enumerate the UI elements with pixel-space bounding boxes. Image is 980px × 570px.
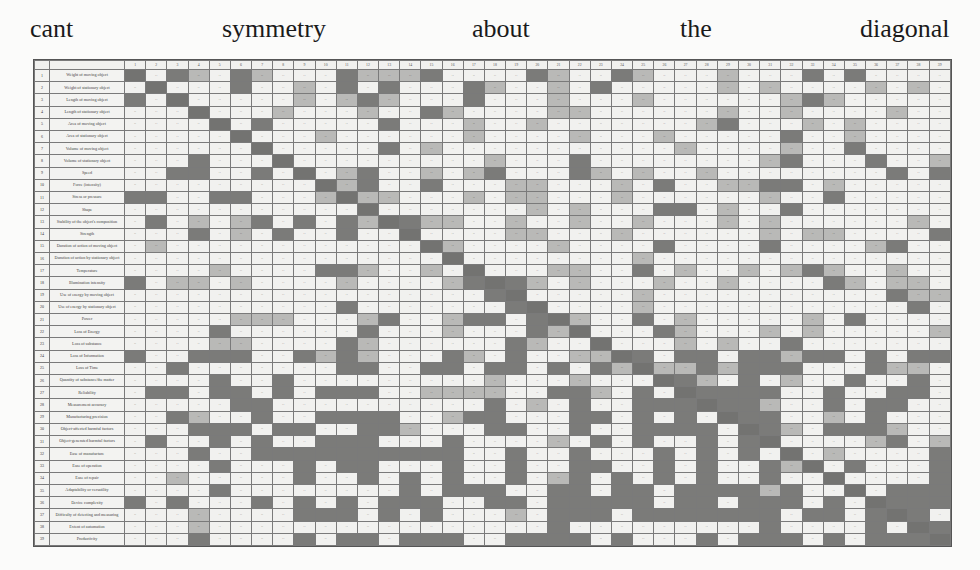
matrix-cell: ·· <box>463 472 484 484</box>
matrix-cell: ·· <box>717 460 738 472</box>
matrix-cell: ·· <box>633 216 654 228</box>
matrix-cell: ·· <box>527 472 548 484</box>
matrix-cell: ·· <box>357 216 378 228</box>
matrix-cell: ·· <box>146 484 167 496</box>
matrix-cell: ·· <box>506 484 527 496</box>
matrix-cell <box>506 533 527 545</box>
matrix-cell <box>929 472 950 484</box>
matrix-cell: ·· <box>633 460 654 472</box>
matrix-cell: ·· <box>696 94 717 106</box>
matrix-cell: ·· <box>633 167 654 179</box>
matrix-cell <box>484 411 505 423</box>
matrix-cell: ·· <box>590 533 611 545</box>
matrix-cell: ·· <box>188 240 209 252</box>
column-number-header: 5 <box>209 61 230 70</box>
matrix-cell: ·· <box>633 338 654 350</box>
matrix-cell: ·· <box>400 423 421 435</box>
matrix-cell <box>866 362 887 374</box>
matrix-cell <box>781 484 802 496</box>
matrix-cell: ·· <box>188 131 209 143</box>
matrix-cell: ·· <box>654 314 675 326</box>
matrix-cell <box>506 472 527 484</box>
matrix-cell: ·· <box>675 289 696 301</box>
matrix-cell: ·· <box>400 192 421 204</box>
matrix-cell: ·· <box>463 204 484 216</box>
matrix-cell: ·· <box>252 326 273 338</box>
matrix-cell: ·· <box>484 204 505 216</box>
matrix-cell: ·· <box>929 118 950 130</box>
matrix-cell: ·· <box>738 155 759 167</box>
matrix-cell: ·· <box>590 289 611 301</box>
matrix-cell: ·· <box>230 497 251 509</box>
matrix-cell: ·· <box>400 375 421 387</box>
matrix-cell: ·· <box>379 228 400 240</box>
matrix-cell: ·· <box>146 350 167 362</box>
matrix-cell: ·· <box>294 411 315 423</box>
matrix-cell: ·· <box>209 277 230 289</box>
matrix-cell: ·· <box>527 167 548 179</box>
matrix-cell <box>506 460 527 472</box>
matrix-cell: ·· <box>696 70 717 82</box>
matrix-cell: ·· <box>611 387 632 399</box>
matrix-cell: ·· <box>421 167 442 179</box>
matrix-cell: ·· <box>400 118 421 130</box>
matrix-cell: ·· <box>527 277 548 289</box>
matrix-cell: ·· <box>379 350 400 362</box>
matrix-cell: ·· <box>781 399 802 411</box>
column-number-header: 11 <box>336 61 357 70</box>
matrix-cell: ·· <box>929 423 950 435</box>
matrix-cell <box>336 448 357 460</box>
matrix-cell: ·· <box>802 253 823 265</box>
matrix-cell: ·· <box>252 106 273 118</box>
matrix-cell: ·· <box>590 375 611 387</box>
matrix-cell <box>654 399 675 411</box>
matrix-cell: ·· <box>611 375 632 387</box>
matrix-cell: ·· <box>167 216 188 228</box>
matrix-cell: ·· <box>527 204 548 216</box>
matrix-cell: ·· <box>230 314 251 326</box>
matrix-cell: ·· <box>463 387 484 399</box>
row-parameter-label: Adaptability or versatility <box>50 484 125 496</box>
matrix-cell <box>463 82 484 94</box>
matrix-cell: ·· <box>548 338 569 350</box>
matrix-cell: ·· <box>209 411 230 423</box>
matrix-cell: ·· <box>125 204 146 216</box>
matrix-cell: ·· <box>273 179 294 191</box>
matrix-cell <box>887 167 908 179</box>
matrix-cell: ·· <box>929 179 950 191</box>
matrix-cell <box>336 411 357 423</box>
matrix-cell: ·· <box>654 338 675 350</box>
matrix-cell: ·· <box>548 436 569 448</box>
table-row: 36Device complexity·····················… <box>35 497 951 509</box>
matrix-cell: ·· <box>802 179 823 191</box>
matrix-cell: ·· <box>357 228 378 240</box>
matrix-cell: ·· <box>802 106 823 118</box>
matrix-cell: ·· <box>802 143 823 155</box>
matrix-cell: ·· <box>484 240 505 252</box>
matrix-cell <box>548 362 569 374</box>
diagonal-cell <box>908 521 929 533</box>
matrix-cell: ·· <box>442 301 463 313</box>
matrix-cell: ·· <box>654 387 675 399</box>
matrix-cell <box>336 70 357 82</box>
matrix-cell: ·· <box>379 265 400 277</box>
row-parameter-label: Weight of stationary object <box>50 82 125 94</box>
row-parameter-label: Ease of manufacture <box>50 448 125 460</box>
matrix-cell: ·· <box>633 118 654 130</box>
column-number-header: 16 <box>442 61 463 70</box>
matrix-cell <box>696 472 717 484</box>
matrix-cell: ·· <box>527 484 548 496</box>
matrix-cell <box>866 399 887 411</box>
matrix-cell: ·· <box>781 118 802 130</box>
matrix-cell: ·· <box>738 118 759 130</box>
row-number: 14 <box>35 228 50 240</box>
matrix-cell <box>908 497 929 509</box>
matrix-cell: ·· <box>273 484 294 496</box>
column-number-header: 39 <box>929 61 950 70</box>
matrix-cell: ·· <box>230 411 251 423</box>
matrix-cell: ·· <box>866 484 887 496</box>
matrix-cell: ·· <box>802 192 823 204</box>
matrix-cell: ·· <box>336 118 357 130</box>
matrix-cell <box>633 484 654 496</box>
matrix-cell: ·· <box>569 106 590 118</box>
